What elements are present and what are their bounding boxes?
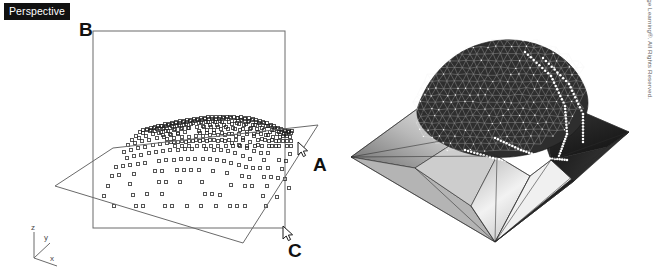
ridge-vertex: [522, 150, 525, 153]
cloud-point: [202, 145, 205, 148]
mesh-vertex: [525, 129, 526, 130]
mesh-vertex: [530, 40, 531, 41]
mesh-vertex: [487, 47, 488, 48]
mesh-vertex: [553, 67, 554, 68]
cloud-point: [141, 140, 144, 143]
mesh-edge: [577, 67, 585, 68]
mesh-vertex: [572, 116, 573, 117]
cloud-point: [180, 136, 183, 139]
ridge-vertex: [470, 151, 473, 154]
cloud-point: [219, 149, 222, 152]
mesh-vertex: [450, 143, 451, 144]
mesh-vertex: [484, 150, 485, 151]
cloud-point: [277, 159, 280, 162]
ridge-vertex: [564, 114, 567, 117]
cloud-point: [276, 195, 279, 198]
mesh-vertex: [552, 135, 553, 136]
ridge-vertex: [547, 72, 550, 75]
annotation-label-c: C: [288, 241, 302, 260]
cloud-point: [236, 205, 239, 208]
mesh-vertex: [435, 87, 436, 88]
cloud-point: [211, 193, 214, 196]
cloud-point: [253, 145, 256, 148]
mesh-vertex: [455, 108, 456, 109]
ridge-vertex: [562, 143, 565, 146]
cloud-point: [271, 145, 274, 148]
ridge-vertex: [497, 138, 500, 141]
mesh-vertex: [579, 61, 580, 62]
mesh-vertex: [553, 53, 554, 54]
mesh-vertex: [546, 81, 547, 82]
ridge-vertex: [479, 153, 482, 156]
cloud-point: [228, 121, 231, 124]
cloud-point: [212, 169, 215, 172]
cloud-point: [278, 139, 281, 142]
mesh-vertex: [464, 101, 465, 102]
mesh-vertex: [470, 149, 471, 150]
axis-label-y: y: [44, 234, 48, 242]
cloud-point: [183, 148, 186, 151]
cloud-point: [248, 157, 251, 160]
ridge-vertex: [560, 150, 563, 153]
ridge-vertex: [550, 75, 553, 78]
cloud-point: [205, 148, 208, 151]
cloud-point: [212, 148, 215, 151]
mesh-vertex: [492, 81, 493, 82]
ridge-vertex: [565, 135, 568, 138]
cloud-point: [174, 145, 177, 148]
ridge-vertex: [560, 147, 563, 150]
cloud-point: [194, 158, 197, 161]
ridge-vertex: [565, 123, 568, 126]
mesh-vertex: [431, 95, 432, 96]
ridge-vertex: [514, 146, 517, 149]
cloud-point: [267, 145, 270, 148]
cloud-point: [185, 205, 188, 208]
cloud-point: [188, 145, 191, 148]
cloud-point: [183, 168, 186, 171]
cloud-point: [118, 174, 121, 177]
cloud-point: [106, 185, 109, 188]
ridge-vertex: [577, 103, 580, 106]
mesh-vertex: [455, 94, 456, 95]
cloud-point: [145, 134, 148, 137]
mesh-vertex: [567, 95, 568, 96]
mesh-vertex: [571, 101, 572, 102]
mesh-edge: [417, 95, 420, 101]
cloud-point: [226, 171, 229, 174]
mesh-edge: [572, 61, 576, 68]
ridge-vertex: [530, 152, 533, 155]
mesh-vertex: [534, 88, 535, 89]
cloud-point: [138, 131, 141, 134]
ridge-vertex: [556, 71, 559, 74]
cloud-point: [200, 205, 203, 208]
cloud-point: [133, 155, 136, 158]
cloud-point: [202, 134, 205, 137]
ridge-vertex: [564, 111, 567, 114]
cloud-point: [183, 131, 186, 134]
ridge-vertex: [476, 152, 479, 155]
cloud-point: [181, 145, 184, 148]
cloud-point: [126, 156, 129, 159]
cloud-point: [252, 150, 255, 153]
mesh-vertex: [477, 94, 478, 95]
cloud-point: [230, 123, 233, 126]
cloud-point: [166, 137, 169, 140]
cloud-point: [252, 167, 255, 170]
ridge-vertex: [565, 127, 568, 130]
perspective-scene-svg: [0, 0, 345, 273]
cloud-point: [262, 175, 265, 178]
cloud-point: [131, 193, 134, 196]
cloud-point: [261, 195, 264, 198]
mesh-vertex: [504, 101, 505, 102]
cloud-point: [197, 168, 200, 171]
cloud-point: [265, 122, 268, 125]
mesh-vertex: [506, 136, 507, 137]
mesh-vertex: [480, 88, 481, 89]
mesh-vertex: [438, 109, 439, 110]
ridge-vertex: [548, 63, 551, 66]
cloud-point: [209, 139, 212, 142]
cursor-c-icon: [283, 226, 293, 241]
cloud-point: [144, 145, 147, 148]
mesh-vertex: [439, 135, 440, 136]
